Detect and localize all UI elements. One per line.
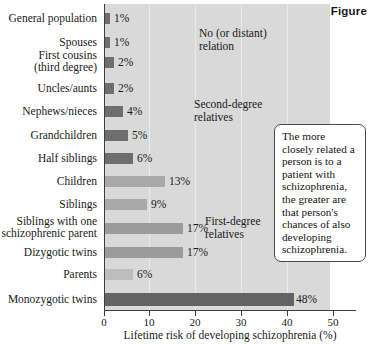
- bar: [105, 130, 128, 141]
- bar: [105, 176, 165, 187]
- gridline-20: [195, 4, 196, 310]
- bar-value: 2%: [118, 56, 133, 68]
- bar: [105, 13, 110, 24]
- group-note-line1: Second-degree: [194, 98, 262, 110]
- category-label-line1: Siblings with one: [16, 215, 97, 227]
- category-label-line1: First cousins: [39, 49, 97, 61]
- category-label: Dizygotic twins: [0, 246, 97, 258]
- category-label: Monozygotic twins: [0, 293, 97, 305]
- bar-value: 48%: [296, 293, 317, 305]
- callout-box: The more closely related a person is to …: [274, 124, 366, 262]
- bar-value: 17%: [187, 246, 208, 258]
- group-note-no-relation: No (or distant) relation: [199, 27, 267, 52]
- figure-root: Figure 0 10 20 30 40 50 Lifetime risk of…: [0, 0, 373, 344]
- bar: [105, 83, 114, 94]
- bar-value: 1%: [114, 36, 129, 48]
- group-note-line1: No (or distant): [199, 27, 267, 39]
- bar-value: 6%: [137, 152, 152, 164]
- x-axis-title: Lifetime risk of developing schizophreni…: [104, 329, 356, 341]
- group-note-line2: relation: [199, 40, 234, 52]
- bar-value: 13%: [169, 175, 190, 187]
- x-tick-label-50: 50: [328, 316, 339, 328]
- bar-value: 2%: [118, 82, 133, 94]
- bar: [105, 106, 123, 117]
- bar: [105, 199, 147, 210]
- bar-value: 9%: [151, 198, 166, 210]
- category-label: Grandchildren: [0, 129, 97, 141]
- category-label: Nephews/nieces: [0, 105, 97, 117]
- category-label-line2: schizophrenic parent: [2, 227, 97, 239]
- x-tick-label-30: 30: [236, 316, 247, 328]
- x-tick-label-0: 0: [101, 316, 107, 328]
- x-axis-line: [104, 310, 356, 311]
- bar: [105, 153, 133, 164]
- bar-value: 4%: [127, 105, 142, 117]
- bar-value: 5%: [132, 129, 147, 141]
- bar: [105, 37, 110, 48]
- group-note-first-degree: First-degree relatives: [205, 215, 261, 240]
- category-label: Children: [0, 175, 97, 187]
- group-note-line1: First-degree: [205, 215, 261, 227]
- category-label: Spouses: [0, 36, 97, 48]
- bar-value: 1%: [114, 12, 129, 24]
- x-tick-label-40: 40: [282, 316, 293, 328]
- bar-value: 6%: [137, 268, 152, 280]
- category-label: General population: [0, 12, 97, 24]
- bar: [105, 293, 294, 306]
- bar: [105, 247, 183, 258]
- group-note-second-degree: Second-degree relatives: [194, 98, 262, 123]
- group-note-line2: relatives: [205, 228, 244, 240]
- bar: [105, 269, 133, 280]
- category-label: First cousins (third degree): [0, 49, 97, 73]
- category-label-line2: (third degree): [34, 61, 97, 73]
- group-note-line2: relatives: [194, 111, 233, 123]
- bar: [105, 223, 183, 234]
- figure-tag: Figure: [331, 5, 367, 17]
- category-label: Siblings with one schizophrenic parent: [0, 215, 97, 239]
- category-label: Siblings: [0, 198, 97, 210]
- category-label: Uncles/aunts: [0, 82, 97, 94]
- category-label: Half siblings: [0, 152, 97, 164]
- x-tick-label-10: 10: [144, 316, 155, 328]
- bar: [105, 57, 114, 68]
- x-tick-label-20: 20: [190, 316, 201, 328]
- category-label: Parents: [0, 268, 97, 280]
